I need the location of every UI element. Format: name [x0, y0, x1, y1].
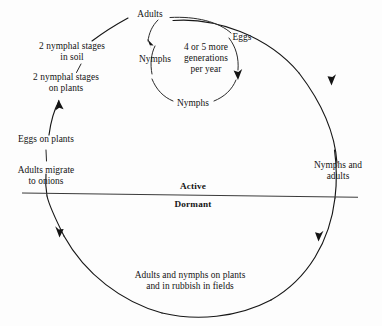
- arrowhead-inner-right-down: [234, 69, 243, 80]
- label-adults-and-nymphs-on-plants: Adults and nymphs on plants and in rubbi…: [135, 270, 246, 292]
- inner-arc-bottom-left: [152, 79, 173, 101]
- outer-connector-left-midtick: [46, 150, 47, 161]
- inner-arc-bottom-right: [214, 80, 236, 101]
- life-cycle-diagram: Adults 2 nymphal stages in soil 2 nympha…: [0, 0, 382, 326]
- arrowhead-outer-right-lower: [315, 231, 324, 242]
- outer-arc-right-upper: [299, 73, 337, 163]
- label-active: Active: [180, 181, 206, 192]
- label-adults-migrate-to-onions: Adults migrate to onions: [18, 165, 75, 187]
- label-adults-top: Adults: [137, 9, 162, 20]
- label-two-nymphal-stages-on-plants: 2 nymphal stages on plants: [33, 72, 99, 94]
- inner-arc-adults-to-nymphs: [148, 20, 158, 41]
- label-nymphs-inner-bottom: Nymphs: [177, 98, 209, 109]
- outer-arc-right-lower: [271, 198, 335, 300]
- arrowhead-inner-to-nymphs-left: [147, 39, 153, 50]
- label-nymphs-inner-left: Nymphs: [139, 54, 171, 65]
- outer-arc-adults-to-nymphal-stages: [92, 18, 128, 41]
- label-nymphs-and-adults: Nymphs and adults: [314, 160, 362, 182]
- label-two-nymphal-stages-in-soil: 2 nymphal stages in soil: [39, 41, 105, 63]
- label-generations-per-year: 4 or 5 more generations per year: [184, 42, 228, 76]
- arrowhead-outer-right-upper: [328, 74, 337, 85]
- outer-arc-bottom: [162, 300, 271, 317]
- label-eggs-on-plants: Eggs on plants: [18, 134, 74, 145]
- active-dormant-divider: [22, 193, 358, 197]
- label-dormant: Dormant: [174, 199, 211, 210]
- label-eggs-inner: Eggs: [233, 32, 252, 43]
